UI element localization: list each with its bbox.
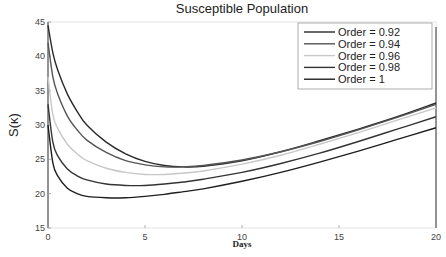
legend-label: Order = 0.92 bbox=[338, 26, 400, 38]
x-tick-label: 5 bbox=[142, 232, 147, 242]
x-axis-label: Days bbox=[232, 239, 251, 249]
x-tick-label: 15 bbox=[334, 232, 344, 242]
legend-label: Order = 0.98 bbox=[338, 61, 400, 73]
y-tick-label: 30 bbox=[35, 120, 45, 130]
x-tick-label: 0 bbox=[45, 232, 50, 242]
x-tick-label: 20 bbox=[431, 232, 441, 242]
line-chart: Susceptible Population 05101520152025303… bbox=[0, 0, 446, 257]
legend-label: Order = 1 bbox=[338, 73, 385, 85]
legend: Order = 0.92Order = 0.94Order = 0.96Orde… bbox=[298, 23, 432, 89]
y-axis-label: S(κ) bbox=[6, 113, 21, 137]
chart-title: Susceptible Population bbox=[176, 1, 308, 16]
legend-label: Order = 0.94 bbox=[338, 38, 400, 50]
y-tick-label: 15 bbox=[35, 223, 45, 233]
y-tick-label: 35 bbox=[35, 86, 45, 96]
y-tick-label: 20 bbox=[35, 189, 45, 199]
y-tick-label: 40 bbox=[35, 51, 45, 61]
y-tick-label: 45 bbox=[35, 17, 45, 27]
y-tick-label: 25 bbox=[35, 154, 45, 164]
legend-label: Order = 0.96 bbox=[338, 50, 400, 62]
